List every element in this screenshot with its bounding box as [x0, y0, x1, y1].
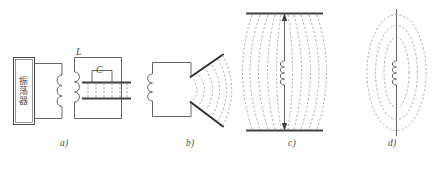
b-rod-upper: [191, 55, 224, 78]
oscillator-char-2: 荡: [19, 87, 28, 96]
capacitor-plates: [82, 83, 131, 99]
b-rod-lower: [191, 102, 224, 127]
oscillator-char-1: 振: [19, 77, 28, 86]
panel-b-group: [148, 55, 232, 127]
panel-label-c: c): [288, 138, 296, 148]
d-center-coil: [392, 61, 396, 85]
capacitor-symbol-label: C: [96, 64, 103, 75]
panel-label-a: a): [60, 138, 68, 148]
inductor-symbol-label: L: [76, 46, 82, 57]
b-loop: [153, 63, 192, 117]
b-coil: [148, 63, 153, 117]
panel-label-b: b): [186, 138, 194, 148]
c-center-coil: [280, 61, 284, 85]
oscillator-label: 振 荡 器: [16, 61, 31, 121]
panel-label-d: d): [388, 138, 396, 148]
oscillator-char-3: 器: [19, 97, 28, 106]
secondary-coil-L: [75, 58, 80, 119]
physics-figure: .sl { fill:none; stroke:#555555; stroke-…: [0, 0, 440, 173]
primary-coil: [57, 64, 62, 119]
panel-a-group: [14, 58, 132, 125]
panel-c-group: [243, 13, 327, 131]
b-field-arcs: [193, 55, 232, 126]
primary-circuit-loop: [35, 64, 63, 119]
panel-d-group: [367, 9, 426, 136]
